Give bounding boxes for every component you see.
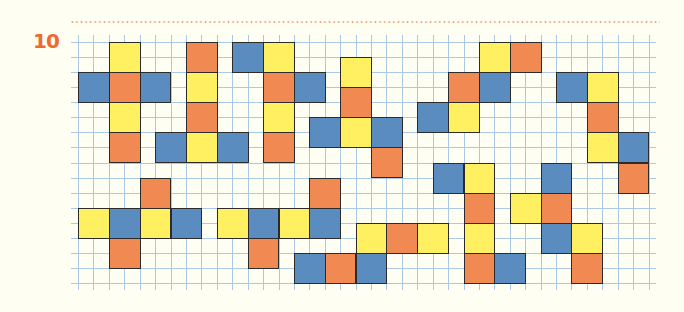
net-square-orange bbox=[109, 132, 141, 163]
net-square-yellow bbox=[340, 117, 372, 148]
net-square-yellow bbox=[464, 223, 496, 254]
net-square-yellow bbox=[279, 208, 311, 239]
net-square-orange bbox=[248, 238, 280, 269]
net-square-yellow bbox=[571, 223, 603, 254]
net-square-blue bbox=[618, 132, 650, 163]
net-square-blue bbox=[171, 208, 203, 239]
net-square-blue bbox=[140, 72, 172, 103]
net-square-orange bbox=[510, 42, 542, 73]
net-square-blue bbox=[371, 117, 403, 148]
net-square-orange bbox=[325, 253, 357, 284]
net-square-orange bbox=[186, 102, 218, 133]
net-square-blue bbox=[155, 132, 187, 163]
net-square-blue bbox=[433, 163, 465, 194]
net-square-orange bbox=[541, 193, 573, 224]
net-square-orange bbox=[464, 193, 496, 224]
net-square-blue bbox=[494, 253, 526, 284]
net-square-blue bbox=[294, 253, 326, 284]
net-square-blue bbox=[309, 208, 341, 239]
net-square-blue bbox=[417, 102, 449, 133]
net-square-orange bbox=[109, 238, 141, 269]
net-square-blue bbox=[217, 132, 249, 163]
graph-paper-grid bbox=[0, 0, 684, 312]
net-square-orange bbox=[587, 102, 619, 133]
net-square-orange bbox=[263, 72, 295, 103]
net-square-yellow bbox=[140, 208, 172, 239]
net-square-blue bbox=[109, 208, 141, 239]
net-square-orange bbox=[571, 253, 603, 284]
net-square-yellow bbox=[217, 208, 249, 239]
net-square-orange bbox=[464, 253, 496, 284]
net-square-yellow bbox=[340, 57, 372, 88]
net-square-blue bbox=[232, 42, 264, 73]
net-square-yellow bbox=[464, 163, 496, 194]
net-square-yellow bbox=[186, 132, 218, 163]
net-square-yellow bbox=[479, 42, 511, 73]
net-square-yellow bbox=[587, 132, 619, 163]
net-square-blue bbox=[294, 72, 326, 103]
net-square-yellow bbox=[109, 102, 141, 133]
net-square-yellow bbox=[356, 223, 388, 254]
net-square-blue bbox=[479, 72, 511, 103]
net-square-orange bbox=[109, 72, 141, 103]
net-square-orange bbox=[618, 163, 650, 194]
net-square-yellow bbox=[109, 42, 141, 73]
net-square-orange bbox=[140, 178, 172, 209]
net-square-yellow bbox=[263, 42, 295, 73]
net-square-blue bbox=[356, 253, 388, 284]
net-square-orange bbox=[340, 87, 372, 118]
net-square-yellow bbox=[78, 208, 110, 239]
net-square-blue bbox=[248, 208, 280, 239]
net-square-yellow bbox=[263, 102, 295, 133]
net-square-orange bbox=[309, 178, 341, 209]
net-square-blue bbox=[556, 72, 588, 103]
net-square-orange bbox=[371, 147, 403, 178]
net-square-orange bbox=[448, 72, 480, 103]
net-square-yellow bbox=[510, 193, 542, 224]
grid-line-horizontal bbox=[71, 42, 656, 43]
net-square-orange bbox=[263, 132, 295, 163]
net-square-orange bbox=[186, 42, 218, 73]
net-square-blue bbox=[309, 117, 341, 148]
net-square-yellow bbox=[417, 223, 449, 254]
net-square-yellow bbox=[186, 72, 218, 103]
net-square-yellow bbox=[448, 102, 480, 133]
net-square-yellow bbox=[587, 72, 619, 103]
net-square-orange bbox=[386, 223, 418, 254]
net-square-blue bbox=[541, 163, 573, 194]
net-square-blue bbox=[78, 72, 110, 103]
net-square-blue bbox=[541, 223, 573, 254]
